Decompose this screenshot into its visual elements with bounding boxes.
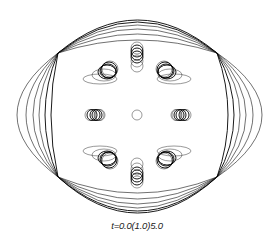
left-boundary-arc xyxy=(45,53,58,177)
inclusion-contour xyxy=(157,74,191,84)
inclusion-lower-right xyxy=(156,146,191,169)
inclusion-upper-right xyxy=(156,61,191,84)
left-boundary-arc xyxy=(17,53,58,177)
inclusion-contour xyxy=(98,65,116,79)
inclusion-contour xyxy=(158,65,176,79)
inclusion-contour xyxy=(92,149,116,161)
inclusion-top xyxy=(131,42,143,72)
inclusion-contour xyxy=(131,60,143,72)
inclusion-contour xyxy=(83,74,117,84)
inclusion-center xyxy=(132,110,142,120)
right-boundary-arc xyxy=(217,53,262,177)
inclusion-contour xyxy=(98,151,116,165)
right-boundary-arc xyxy=(217,53,228,177)
inclusion-lower-left xyxy=(83,146,118,169)
left-boundary-arc xyxy=(51,53,58,177)
inclusion-contour xyxy=(83,146,117,156)
right-boundary-arc xyxy=(217,53,240,177)
inclusion-bottom xyxy=(131,158,143,188)
inclusion-left xyxy=(85,110,105,121)
inclusion-contour xyxy=(131,158,143,170)
inclusion-contour xyxy=(92,69,116,81)
inclusion-contour xyxy=(157,146,191,156)
contour-diagram xyxy=(0,0,274,248)
inclusion-contour xyxy=(158,151,176,165)
bottom-boundary-arc xyxy=(58,177,217,204)
right-boundary-arc xyxy=(217,53,246,177)
inclusion-contour xyxy=(158,149,182,161)
inclusion-contour xyxy=(132,110,142,120)
inclusion-contours xyxy=(83,42,191,188)
inclusion-right xyxy=(171,110,191,121)
inclusion-upper-left xyxy=(83,61,118,84)
time-caption: t=0.0(1.0)5.0 xyxy=(0,220,274,231)
inclusion-contour xyxy=(158,69,182,81)
left-boundary-arc xyxy=(26,53,58,177)
top-boundary-arc xyxy=(58,29,217,53)
